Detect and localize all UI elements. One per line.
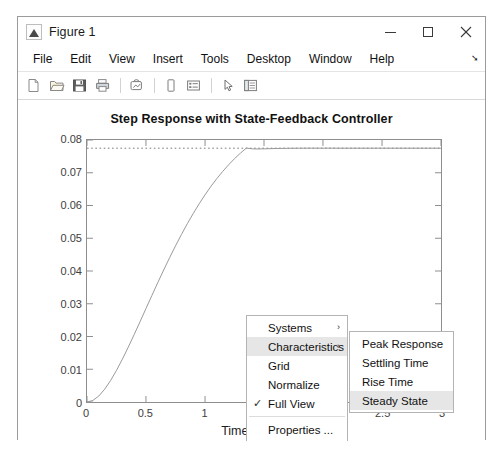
- y-tick-label: 0.04: [61, 265, 82, 277]
- y-tick-label: 0.02: [61, 331, 82, 343]
- x-tick-label: 0: [83, 407, 89, 419]
- y-tick-label: 0.03: [61, 298, 82, 310]
- y-tick-label: 0.06: [61, 199, 82, 211]
- minimize-icon: [385, 32, 396, 33]
- insert-legend-button[interactable]: [183, 75, 204, 96]
- menu-overflow-icon[interactable]: ➘: [471, 54, 479, 63]
- y-axis-tick-labels: 0 0.01 0.02 0.03 0.04 0.05 0.06 0.07 0.0…: [42, 139, 82, 403]
- menu-item-help[interactable]: Help: [361, 49, 404, 70]
- context-menu-item-normalize[interactable]: Normalize: [247, 375, 347, 394]
- submenu-item-settling-time[interactable]: Settling Time: [350, 353, 453, 372]
- submenu-label: Settling Time: [362, 357, 428, 369]
- context-menu-label: Systems: [268, 322, 312, 334]
- y-tick-label: 0: [76, 397, 82, 409]
- plot-context-menu[interactable]: Systems › Characteristics › Grid Normali…: [246, 315, 348, 441]
- insert-colorbar-button[interactable]: [160, 75, 181, 96]
- figure-window: Figure 1 File Edit View: [17, 16, 486, 440]
- open-file-icon: [49, 78, 65, 93]
- menu-item-window[interactable]: Window: [300, 49, 361, 70]
- maximize-button[interactable]: [409, 17, 447, 47]
- chart-title: Step Response with State-Feedback Contro…: [18, 112, 485, 126]
- submenu-item-steady-state[interactable]: Steady State: [350, 391, 453, 410]
- y-tick-label: 0.08: [61, 133, 82, 145]
- y-tick-label: 0.01: [61, 364, 82, 376]
- tool-bar: [18, 72, 485, 100]
- menu-item-file[interactable]: File: [24, 49, 61, 70]
- submenu-label: Rise Time: [362, 376, 413, 388]
- show-plot-tools-button[interactable]: [240, 75, 261, 96]
- edit-plot-button[interactable]: [217, 75, 238, 96]
- characteristics-submenu[interactable]: Peak Response Settling Time Rise Time St…: [349, 331, 454, 413]
- y-tick-label: 0.07: [61, 166, 82, 178]
- show-plot-tools-icon: [243, 78, 258, 93]
- checkmark-icon: ✓: [253, 398, 262, 409]
- window-controls: [371, 17, 485, 47]
- context-menu-item-grid[interactable]: Grid: [247, 356, 347, 375]
- title-bar: Figure 1: [18, 17, 485, 47]
- context-menu-label: Properties ...: [268, 424, 333, 436]
- link-plot-button[interactable]: [126, 75, 147, 96]
- chevron-right-icon: ›: [337, 342, 340, 351]
- minimize-button[interactable]: [371, 17, 409, 47]
- context-menu-item-properties[interactable]: Properties ...: [247, 420, 347, 439]
- matlab-figure-icon: [26, 24, 42, 40]
- insert-colorbar-icon: [164, 78, 178, 93]
- figure-canvas[interactable]: Step Response with State-Feedback Contro…: [18, 100, 485, 441]
- context-menu-label: Normalize: [268, 379, 320, 391]
- menu-item-desktop[interactable]: Desktop: [238, 49, 300, 70]
- close-button[interactable]: [447, 17, 485, 47]
- x-tick-label: 1: [202, 407, 208, 419]
- context-menu-item-full-view[interactable]: ✓ Full View: [247, 394, 347, 413]
- menu-item-edit[interactable]: Edit: [61, 49, 100, 70]
- insert-legend-icon: [186, 78, 201, 93]
- menu-bar: File Edit View Insert Tools Desktop Wind…: [18, 47, 485, 72]
- close-icon: [460, 26, 472, 38]
- context-menu-label: Full View: [268, 398, 314, 410]
- toolbar-separator-3: [211, 78, 212, 93]
- submenu-label: Steady State: [362, 395, 428, 407]
- new-figure-button[interactable]: [23, 75, 44, 96]
- context-menu-separator: [249, 416, 345, 417]
- screenshot-root: Figure 1 File Edit View: [0, 0, 503, 466]
- submenu-label: Peak Response: [362, 338, 443, 350]
- context-menu-label: Characteristics: [268, 341, 344, 353]
- menu-item-view[interactable]: View: [100, 49, 144, 70]
- edit-plot-arrow-icon: [221, 78, 235, 93]
- print-figure-icon: [95, 78, 111, 93]
- link-plot-icon: [129, 78, 145, 93]
- context-menu-item-systems[interactable]: Systems ›: [247, 318, 347, 337]
- y-tick-label: 0.05: [61, 232, 82, 244]
- submenu-item-peak-response[interactable]: Peak Response: [350, 334, 453, 353]
- chevron-right-icon: ›: [337, 323, 340, 332]
- toolbar-separator-2: [154, 78, 155, 93]
- print-figure-button[interactable]: [92, 75, 113, 96]
- window-title: Figure 1: [49, 25, 96, 39]
- save-figure-button[interactable]: [69, 75, 90, 96]
- maximize-icon: [423, 27, 433, 37]
- save-figure-icon: [72, 78, 87, 93]
- x-tick-label: 0.5: [138, 407, 153, 419]
- context-menu-label: Grid: [268, 360, 290, 372]
- toolbar-separator-1: [120, 78, 121, 93]
- context-menu-item-characteristics[interactable]: Characteristics ›: [247, 337, 347, 356]
- open-file-button[interactable]: [46, 75, 67, 96]
- submenu-item-rise-time[interactable]: Rise Time: [350, 372, 453, 391]
- menu-item-insert[interactable]: Insert: [144, 49, 192, 70]
- new-figure-icon: [26, 78, 41, 93]
- menu-item-tools[interactable]: Tools: [192, 49, 238, 70]
